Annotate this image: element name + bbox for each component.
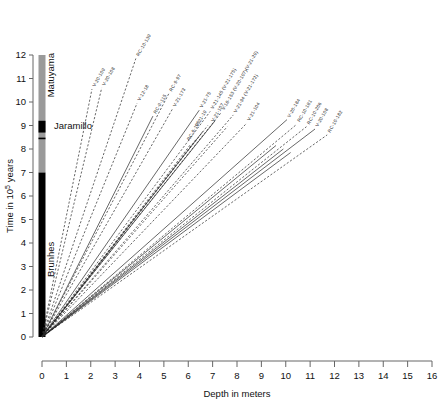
core-label: RC-9-115 [152,93,167,114]
x-tick-label: 11 [305,370,315,381]
y-tick-label: 9 [21,120,26,131]
accumulation-line [42,145,276,337]
x-tick-label: 16 [427,370,438,381]
accumulation-lines [42,59,327,337]
y-tick-label: 7 [21,167,26,178]
x-tick-label: 1 [64,370,69,381]
y-tick-label: 4 [21,237,26,248]
accumulation-line-rc-9-115 [42,116,153,337]
accumulation-line-v-21-145 [42,111,210,337]
x-tick-label: 0 [39,370,44,381]
chron-label-brunhes: Brunhes [45,241,56,277]
y-tick-label: 1 [21,308,26,319]
x-tick-label: 5 [161,370,166,381]
y-tick-label: 3 [21,261,26,272]
axis-text: 0123456789101112012345678910111213141516… [4,49,438,399]
core-label: V-21-104 [246,101,261,122]
core-label: V-12-18 [137,84,150,102]
core-label: RC-10-139 [135,33,152,57]
y-tick-label: 8 [21,143,26,154]
polarity-jaramillo-event [39,121,46,133]
accumulation-line-rc-10-206 [42,127,306,337]
x-tick-label: 3 [112,370,117,381]
accumulation-line-rc-10-181 [42,124,297,337]
accumulation-line [42,149,283,337]
x-tick-label: 7 [210,370,215,381]
accumulation-line [42,127,227,337]
accumulation-line-v-20-184 [42,120,287,337]
y-tick-label: 10 [15,96,26,107]
x-tick-label: 15 [402,370,413,381]
x-tick-label: 2 [88,370,93,381]
y-tick-label: 6 [21,190,26,201]
accumulation-line-v-21-104 [42,123,247,337]
figure-sediment-accumulation: V-20-109V-20-108RC-10-139V-12-18RC-9-115… [0,0,444,404]
chron-label-jaramillo: Jaramillo [54,120,92,131]
core-label: RC-10-182 [327,109,344,133]
accumulation-line [42,121,215,337]
y-tick-label: 12 [15,49,26,60]
x-tick-label: 9 [259,370,264,381]
x-tick-label: 6 [186,370,191,381]
core-label: V-21-173 [172,87,187,108]
x-tick-label: 12 [329,370,340,381]
core-labels: V-20-109V-20-108RC-10-139V-12-18RC-9-115… [92,33,344,141]
chart-svg: V-20-109V-20-108RC-10-139V-12-18RC-9-115… [0,0,444,404]
x-tick-label: 4 [137,370,142,381]
core-label-inner: RC-9-105 [186,120,201,142]
accumulation-line-v-21-94 [42,115,233,337]
axes [29,55,432,367]
accumulation-line-v-20-108b [42,129,315,337]
y-tick-label: 5 [21,214,26,225]
x-axis-title: Depth in meters [203,388,270,399]
y-tick-label: 0 [21,331,26,342]
x-tick-label: 10 [280,370,291,381]
x-tick-label: 8 [234,370,239,381]
y-tick-label: 11 [16,73,26,84]
x-tick-label: 13 [354,370,365,381]
x-tick-label: 14 [378,370,389,381]
polarity-jaramillo-subtick [39,138,46,140]
chron-label-matuyama: Matuyama [45,52,56,97]
y-axis-title: Time in 105 years [4,159,16,233]
y-tick-label: 2 [21,284,26,295]
accumulation-line-rc-10-182 [42,135,327,337]
